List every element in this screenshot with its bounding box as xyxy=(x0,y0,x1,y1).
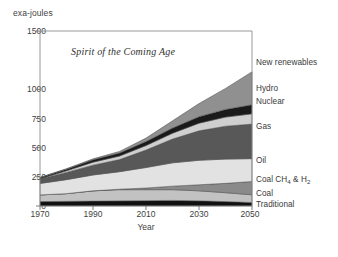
x-tick-label: 2050 xyxy=(241,209,260,219)
series-label-traditional: Traditional xyxy=(256,200,294,209)
series-label-gas: Gas xyxy=(256,122,271,131)
series-label-amp: & H xyxy=(291,175,307,184)
y-axis-title: exa-joules xyxy=(13,8,53,18)
subscript-2: 2 xyxy=(307,177,311,184)
series-label-new-renewables: New renewables xyxy=(256,58,317,67)
x-tick-label: 2030 xyxy=(190,209,209,219)
x-tick-label: 1990 xyxy=(84,209,103,219)
plot-area xyxy=(40,31,252,206)
x-tick-label: 1970 xyxy=(31,209,50,219)
series-label-coal-ch4-h2: Coal CH4 & H2 xyxy=(256,175,310,184)
series-label-oil: Oil xyxy=(256,156,266,165)
stacked-area-svg xyxy=(40,31,252,206)
x-axis-title: Year xyxy=(137,222,154,232)
x-tick-label: 2010 xyxy=(137,209,156,219)
figure: exa-joules 1500 1000 750 500 250 0 1970 … xyxy=(0,0,338,257)
series-label-coal: Coal xyxy=(256,189,273,198)
series-label-hydro: Hydro xyxy=(256,84,278,93)
subscript-4: 4 xyxy=(287,177,291,184)
series-label-coal-ch4-h2-text: Coal CH xyxy=(256,175,287,184)
series-label-nuclear: Nuclear xyxy=(256,97,285,106)
